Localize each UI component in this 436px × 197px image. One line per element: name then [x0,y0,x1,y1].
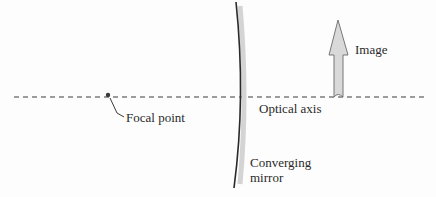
mirror-label-line1: Converging [250,156,311,170]
image-arrow-icon [329,20,348,97]
focal-point-icon [106,93,110,97]
optical-axis-label: Optical axis [259,102,321,116]
focal-point-label: Focal point [126,111,185,125]
image-label: Image [355,43,387,57]
focal-point-leader [110,98,124,117]
mirror-label-line2: mirror [250,171,283,185]
diagram-canvas: Image Optical axis Focal point Convergin… [0,0,436,197]
diagram-graphics [0,0,436,197]
